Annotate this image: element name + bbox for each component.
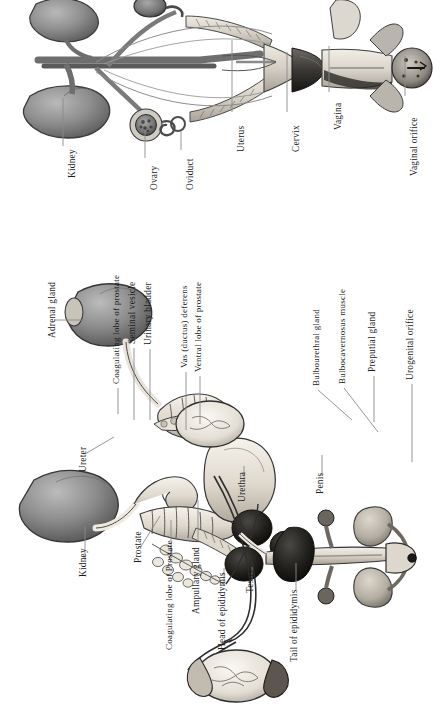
label-adrenal-gland: Adrenal gland [48, 282, 57, 338]
female-reproductive-tract-figure: KidneyOvaryOviductUterusCervixVaginaVagi… [0, 0, 442, 215]
label-prostate: Prostate [134, 531, 143, 563]
label-ovary: Ovary [150, 166, 159, 190]
label-penis: Penis [316, 473, 325, 494]
label-vaginal-orifice: Vaginal orifice [410, 117, 419, 176]
label-ventral-lobe-prostate: Ventral lobe of prostate [194, 282, 203, 372]
label-kidney-male: Kidney [79, 548, 88, 577]
label-ampullary-gland: Ampullary gland [192, 547, 201, 614]
label-urinary-bladder: Urinary bladder [144, 282, 153, 345]
label-urethra: Urethra [238, 472, 247, 502]
label-coagulating-lobe-prostate: Coagulating lobe of prostate [112, 275, 121, 384]
label-uterus: Uterus [237, 126, 246, 152]
female-leader-lines [0, 0, 442, 215]
label-ureter: Ureter [79, 447, 88, 472]
label-bulbourethral-gland: Bulbourethral gland [312, 309, 321, 386]
label-kidney: Kidney [68, 149, 77, 178]
label-tail-of-epididymis: Tail of epididymis [290, 589, 299, 662]
label-head-of-epididymis: Head of epididymis [218, 572, 227, 650]
label-testis: Testis [246, 570, 255, 593]
label-cervix: Cervix [292, 125, 301, 152]
label-coagulating-lobe-Prostate2: Coagulating lobe of Prostate [165, 540, 174, 650]
label-urogenital-orifice: Urogenital orifice [406, 309, 415, 380]
label-oviduct: Oviduct [186, 158, 195, 190]
male-reproductive-tract-figure: Adrenal glandUreterKidneyCoagulating lob… [0, 228, 442, 715]
label-vagina: Vagina [334, 103, 343, 130]
label-vas-deferens: Vas (ductus) deferens [180, 285, 189, 368]
leader-bulbourethral-gland [318, 390, 352, 420]
leader-bulbocavernosus-muscle [344, 388, 378, 432]
leader-ureter [85, 437, 114, 454]
label-preputial-gland: Preputial gland [368, 312, 377, 372]
label-bulbocavernosus-muscle: Bulbocavernosus muscle [338, 289, 347, 384]
label-seminal-vesicle: Seminal vesicle [128, 282, 137, 344]
